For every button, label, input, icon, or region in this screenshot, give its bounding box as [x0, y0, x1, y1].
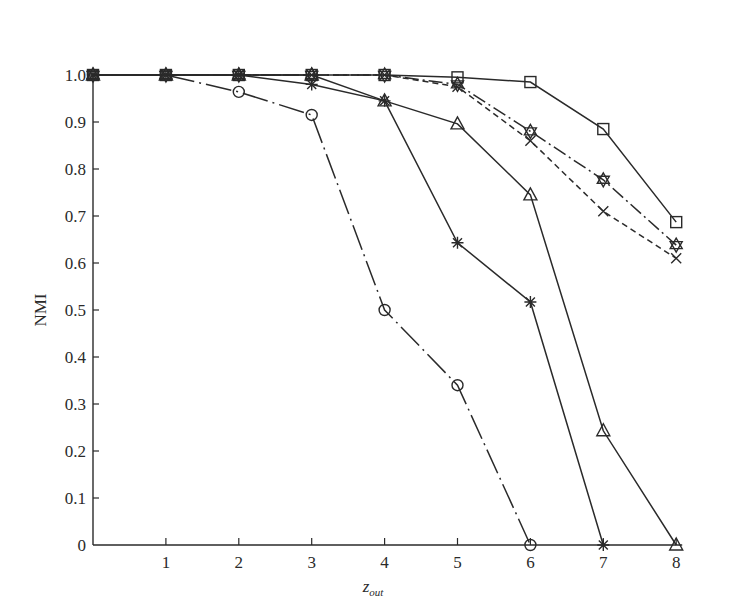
y-axis-title: NMI: [31, 293, 50, 326]
axes: 00.10.20.30.40.50.60.70.80.91.012345678: [65, 66, 682, 572]
x-tick-label: 7: [599, 553, 608, 572]
asterisk-marker-icon: [597, 539, 609, 551]
series-line-asterisk: [93, 75, 603, 545]
x-tick-label: 8: [672, 553, 681, 572]
x-tick-label: 5: [453, 553, 462, 572]
nmi-line-chart: 00.10.20.30.40.50.60.70.80.91.012345678 …: [0, 0, 742, 607]
y-tick-label: 0.7: [65, 207, 87, 226]
x-tick-label: 4: [380, 553, 389, 572]
y-tick-label: 0.6: [65, 254, 86, 273]
asterisk-marker-icon: [524, 296, 536, 308]
series-line-circle: [93, 75, 530, 545]
x-tick-label: 2: [235, 553, 244, 572]
asterisk-marker-icon: [379, 95, 391, 107]
y-tick-label: 0.8: [65, 160, 86, 179]
y-tick-label: 0.9: [65, 113, 86, 132]
series-circle: [88, 70, 536, 551]
x-axis-title: zout: [362, 577, 385, 598]
circle-marker-icon: [306, 109, 317, 120]
x-tick-label: 6: [526, 553, 535, 572]
asterisk-marker-icon: [233, 69, 245, 81]
y-tick-label: 1.0: [65, 66, 86, 85]
cross-marker-icon: [598, 206, 608, 216]
asterisk-marker-icon: [452, 237, 464, 249]
asterisk-marker-icon: [306, 78, 318, 90]
x-tick-label: 1: [162, 553, 171, 572]
series-group: [87, 68, 683, 551]
x-axis-title-sub: out: [369, 586, 384, 598]
y-tick-label: 0.2: [65, 442, 86, 461]
y-tick-label: 0.1: [65, 489, 86, 508]
y-tick-label: 0.5: [65, 301, 86, 320]
y-tick-label: 0.4: [65, 348, 87, 367]
y-tick-label: 0.3: [65, 395, 86, 414]
y-tick-label: 0: [78, 536, 87, 555]
circle-marker-icon: [233, 86, 244, 97]
x-tick-label: 3: [307, 553, 316, 572]
cross-marker-icon: [671, 253, 681, 263]
